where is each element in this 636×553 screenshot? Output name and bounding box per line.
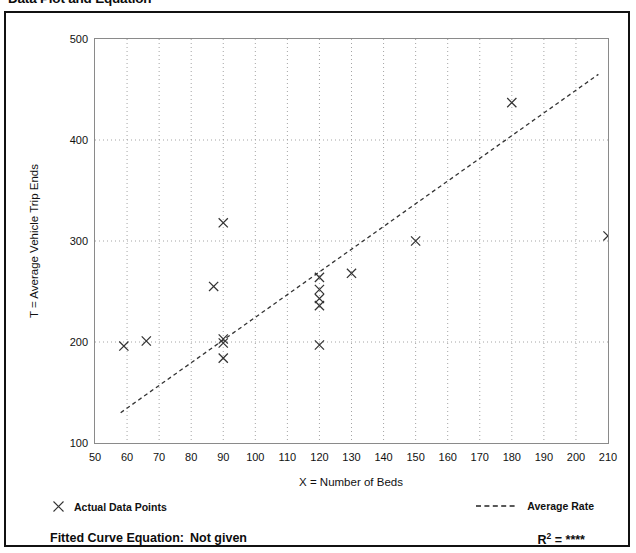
x-tick-label: 190 [535,451,553,463]
x-tick-label: 50 [89,451,101,463]
r-squared-exponent: 2 [547,531,552,541]
x-marker-icon [52,500,65,513]
x-tick-label: 140 [374,451,392,463]
fitted-curve-value: Not given [190,531,247,545]
x-tick-label: 110 [279,451,297,463]
average-rate-trend-line [121,74,599,412]
y-tick-label: 200 [70,336,88,348]
data-point-marker [315,273,324,282]
x-tick-label: 120 [310,451,328,463]
dashed-line-icon [475,502,517,510]
x-tick-label: 90 [217,451,229,463]
figure-frame: T = Average Vehicle Trip Ends 1002003004… [4,11,630,547]
x-tick-label: 200 [567,451,585,463]
r-squared-number: **** [566,533,585,547]
plot-area: 100200300400500 506070809010011012013014… [94,38,609,444]
y-tick-label: 300 [70,235,88,247]
data-point-marker [411,236,420,245]
x-tick-label: 80 [185,451,197,463]
page-title: Data Plot and Equation [8,0,151,6]
r-squared-equals: = [555,533,562,547]
legend-entry-average-rate: Average Rate [475,500,594,512]
legend-label-data-points: Actual Data Points [74,501,167,513]
data-point-marker [603,231,608,240]
y-tick-label: 100 [70,437,88,449]
x-tick-label: 70 [153,451,165,463]
y-tick-label: 400 [70,134,88,146]
trend-line [121,74,599,412]
y-axis-title: T = Average Vehicle Trip Ends [28,164,40,318]
x-tick-label: 170 [471,451,489,463]
fitted-curve-equation: Fitted Curve Equation:Not given [50,531,247,545]
chart-legend: Actual Data Points Average Rate [6,500,632,526]
x-tick-label: 60 [121,451,133,463]
data-point-marker [315,285,324,294]
r-squared-value: R2 = **** [537,531,585,547]
data-point-marker [209,282,218,291]
actual-data-points [119,98,608,363]
r-squared-symbol: R [537,533,546,547]
plot-canvas [95,39,608,443]
legend-entry-data-points: Actual Data Points [52,500,167,513]
x-tick-label: 160 [439,451,457,463]
fitted-curve-caption: Fitted Curve Equation: [50,531,184,545]
y-tick-label: 500 [70,33,88,45]
x-tick-label: 100 [246,451,264,463]
data-point-marker [347,269,356,278]
data-point-marker [315,301,324,310]
x-tick-label: 150 [406,451,424,463]
data-point-marker [142,336,151,345]
chart-footer: Fitted Curve Equation:Not given R2 = ***… [6,531,632,553]
data-point-marker [119,341,128,350]
x-tick-label: 130 [342,451,360,463]
x-tick-label: 180 [503,451,521,463]
x-axis-title: X = Number of Beds [299,476,403,488]
data-point-marker [219,354,228,363]
legend-label-average-rate: Average Rate [527,500,594,512]
x-tick-label: 210 [599,451,617,463]
